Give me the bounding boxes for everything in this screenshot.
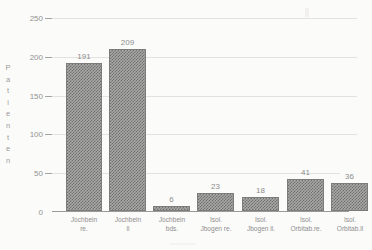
gridline-250 xyxy=(52,18,357,19)
bar-jochbein-re xyxy=(66,63,102,211)
bar-value-jochbein-ll: 209 xyxy=(109,38,146,47)
y-axis-title-letter: a xyxy=(6,74,10,86)
bar-value-isol-jbogen-re: 23 xyxy=(197,182,234,191)
y-tick-label-200: 200 xyxy=(30,52,43,61)
bar-value-jochbein-re: 191 xyxy=(66,52,102,61)
y-axis-title-letter: i xyxy=(7,97,9,109)
y-tick-label-250: 250 xyxy=(30,14,43,23)
y-tick-label-50: 50 xyxy=(34,169,43,178)
y-axis-title-letter: t xyxy=(7,132,9,144)
tick-250 xyxy=(45,18,52,19)
tick-200 xyxy=(45,57,52,58)
x-label-isol-orbitab-ll: Isol. Orbitab.ll xyxy=(320,215,372,234)
scan-artifact xyxy=(170,243,196,245)
bar-value-isol-orbitab-ll: 36 xyxy=(331,172,368,181)
y-axis-title-letter: n xyxy=(6,155,10,167)
plot-area: 250 200 150 100 50 0 191 209 6 23 18 41 … xyxy=(52,18,357,212)
y-tick-label-0: 0 xyxy=(39,208,43,217)
y-tick-label-150: 150 xyxy=(30,91,43,100)
scan-artifact xyxy=(305,8,309,17)
bar-jochbein-bds xyxy=(153,206,190,211)
y-axis-title-letter: n xyxy=(6,120,10,132)
bar-isol-orbitab-ll xyxy=(331,183,368,211)
tick-150 xyxy=(45,96,52,97)
y-axis-title-letter: e xyxy=(6,108,10,120)
y-axis-title-letter: P xyxy=(5,62,10,74)
y-axis-title: P a t i e n t e n xyxy=(2,62,14,166)
tick-50 xyxy=(45,173,52,174)
bar-isol-jbogen-ll xyxy=(242,197,279,211)
y-tick-label-100: 100 xyxy=(30,130,43,139)
bar-jochbein-ll xyxy=(109,49,146,211)
y-axis-title-letter: t xyxy=(7,85,9,97)
bar-isol-jbogen-re xyxy=(197,193,234,211)
x-axis-line xyxy=(52,211,349,212)
bar-value-isol-jbogen-ll: 18 xyxy=(242,186,279,195)
tick-100 xyxy=(45,134,52,135)
bar-isol-orbitab-re xyxy=(287,179,324,211)
x-axis-labels: Jochbein re. Jochbein ll Jochbein bds. I… xyxy=(52,215,357,245)
y-axis-title-letter: e xyxy=(6,143,10,155)
bar-value-isol-orbitab-re: 41 xyxy=(287,168,324,177)
bar-value-jochbein-bds: 6 xyxy=(153,195,190,204)
